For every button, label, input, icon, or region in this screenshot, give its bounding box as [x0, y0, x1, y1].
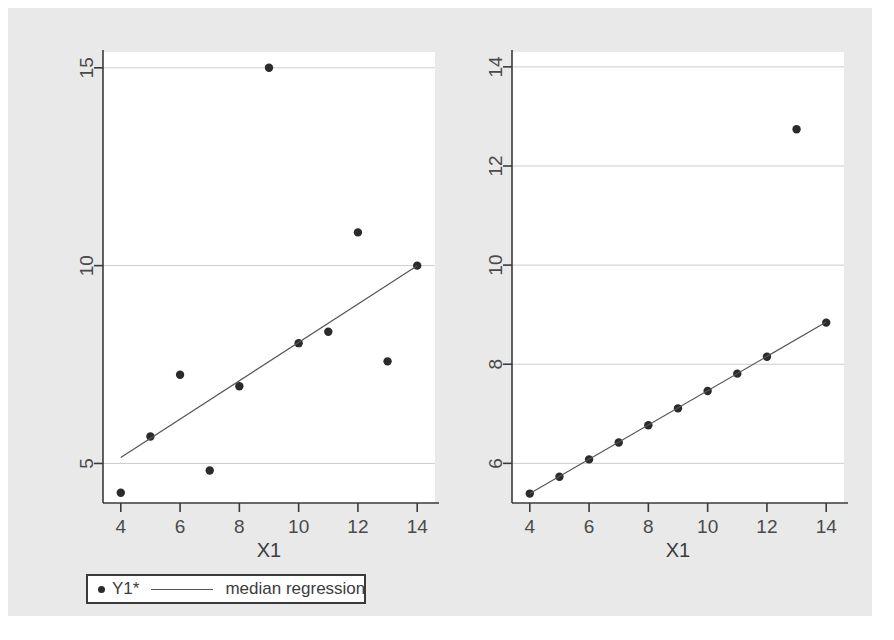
chart-panel-left: 51015468101214X1 Y1* median regression: [8, 8, 440, 616]
svg-text:X1: X1: [257, 539, 281, 561]
scatter-plot-left: 51015468101214X1: [8, 8, 440, 616]
svg-text:X1: X1: [666, 539, 690, 561]
scatter-plot-right: 68101214468101214X1: [440, 8, 872, 616]
svg-text:10: 10: [77, 255, 98, 276]
svg-text:12: 12: [486, 155, 507, 176]
svg-text:6: 6: [486, 458, 507, 469]
chart-panel-right: 68101214468101214X1 Y3 median regression: [440, 8, 872, 616]
svg-text:6: 6: [175, 516, 186, 537]
svg-text:14: 14: [407, 516, 429, 537]
svg-text:12: 12: [347, 516, 368, 537]
svg-text:10: 10: [486, 255, 507, 276]
legend-left: Y1* median regression: [86, 574, 366, 604]
svg-text:5: 5: [77, 458, 98, 469]
legend-line-swatch-icon: [151, 589, 213, 590]
legend-series-label: Y1*: [112, 579, 139, 599]
svg-text:12: 12: [756, 516, 777, 537]
legend-fit-label: median regression: [225, 579, 365, 599]
svg-text:8: 8: [486, 359, 507, 370]
svg-text:14: 14: [816, 516, 838, 537]
figure-canvas: 51015468101214X1 Y1* median regression 6…: [8, 8, 872, 616]
legend-point-marker-icon: [98, 586, 105, 593]
svg-text:4: 4: [524, 516, 535, 537]
svg-text:15: 15: [77, 57, 98, 78]
svg-text:8: 8: [234, 516, 245, 537]
svg-text:4: 4: [115, 516, 126, 537]
svg-text:14: 14: [486, 56, 507, 78]
svg-text:10: 10: [288, 516, 309, 537]
svg-text:10: 10: [697, 516, 718, 537]
svg-text:8: 8: [643, 516, 654, 537]
svg-text:6: 6: [584, 516, 595, 537]
